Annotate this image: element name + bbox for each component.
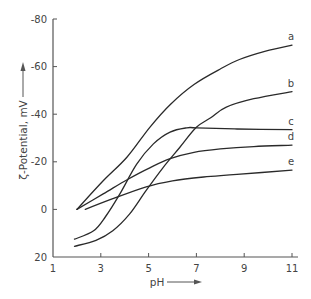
x-arrowhead-icon <box>194 280 202 285</box>
x-axis-label: pH <box>150 276 165 288</box>
labels: -80-60-40-200201357911pHζ-Potential, mVa… <box>17 14 298 289</box>
y-tick-label: 20 <box>34 252 47 263</box>
y-tick-label: -20 <box>31 156 47 167</box>
curve-b <box>75 92 293 247</box>
curve-c <box>75 127 293 239</box>
y-tick-label: -60 <box>31 61 47 72</box>
y-arrowhead-icon <box>21 62 26 71</box>
zeta-potential-chart: -80-60-40-200201357911pHζ-Potential, mVa… <box>0 0 311 299</box>
y-axis-label: ζ-Potential, mV <box>17 99 29 179</box>
curve-label-a: a <box>288 31 294 42</box>
curves <box>75 45 293 246</box>
x-tick-label: 3 <box>98 263 104 274</box>
curve-label-b: b <box>288 78 294 89</box>
y-tick-label: -80 <box>31 14 47 25</box>
y-tick-label: -40 <box>31 109 47 120</box>
curve-a <box>77 45 292 209</box>
curve-e <box>85 170 292 209</box>
x-tick-label: 1 <box>50 263 56 274</box>
axes <box>21 19 299 285</box>
curve-label-d: d <box>288 131 294 142</box>
x-tick-label: 9 <box>241 263 247 274</box>
x-tick-label: 5 <box>145 263 151 274</box>
curve-label-e: e <box>288 156 294 167</box>
x-tick-label: 7 <box>193 263 199 274</box>
curve-label-c: c <box>288 116 294 127</box>
y-tick-label: 0 <box>41 204 47 215</box>
x-tick-label: 11 <box>286 263 299 274</box>
